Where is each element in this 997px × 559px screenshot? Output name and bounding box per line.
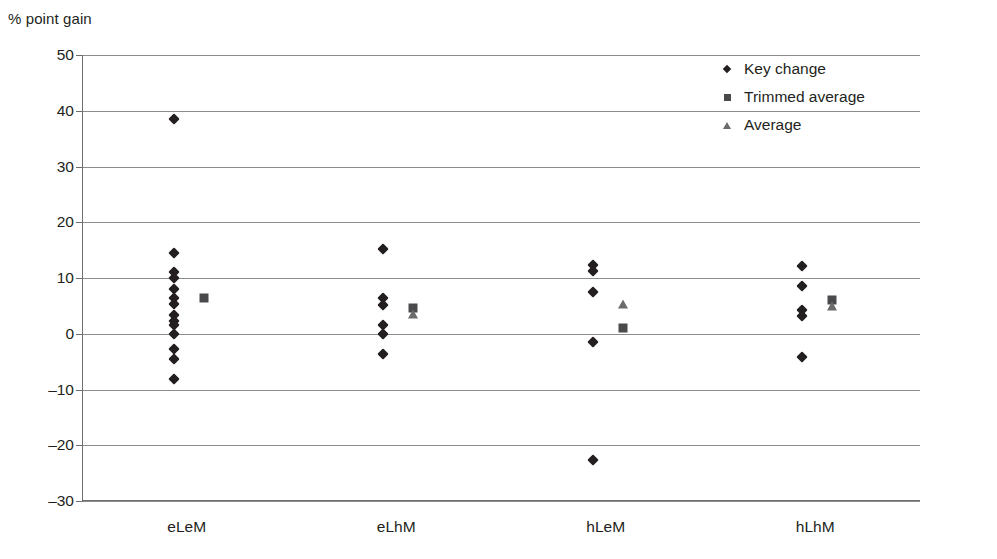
legend-square-icon (716, 94, 738, 101)
data-point-diamond (378, 243, 389, 254)
legend-item-label: Average (738, 116, 801, 134)
y-axis-tick-label: –30 (12, 492, 74, 510)
gridline (83, 167, 920, 168)
gridline (83, 334, 920, 335)
y-axis-tick-label: –20 (12, 436, 74, 454)
y-axis-tick-label: 0 (12, 325, 74, 343)
data-point-square (199, 294, 208, 303)
data-point-triangle (827, 301, 837, 310)
y-axis-tick-label: 50 (12, 46, 74, 64)
scatter-chart: % point gain 50403020100–10–20–30 eLeMeL… (0, 0, 997, 559)
data-point-triangle (618, 299, 628, 308)
data-point-diamond (587, 336, 598, 347)
x-axis-tick-label: hLhM (796, 518, 835, 536)
y-axis-tick-label: 30 (12, 158, 74, 176)
data-point-diamond (378, 328, 389, 339)
gridline (83, 390, 920, 391)
gridline (83, 278, 920, 279)
data-point-diamond (168, 328, 179, 339)
gridline (83, 501, 920, 502)
data-point-diamond (797, 351, 808, 362)
legend-item: Trimmed average (716, 84, 936, 110)
x-axis-tick-label: eLeM (167, 518, 206, 536)
data-point-diamond (587, 286, 598, 297)
data-point-diamond (168, 354, 179, 365)
data-point-diamond (587, 455, 598, 466)
legend-item: Average (716, 112, 936, 138)
y-axis-tick-label: –10 (12, 381, 74, 399)
y-axis-tick-label: 20 (12, 213, 74, 231)
legend-item-label: Key change (738, 60, 826, 78)
data-point-diamond (378, 348, 389, 359)
x-axis-tick-label: eLhM (377, 518, 416, 536)
data-point-diamond (168, 113, 179, 124)
y-axis-tick-labels: 50403020100–10–20–30 (0, 0, 74, 559)
x-axis-tick-label: hLeM (586, 518, 625, 536)
gridline (83, 222, 920, 223)
y-axis-tick-mark (76, 501, 83, 502)
data-point-diamond (797, 311, 808, 322)
data-point-diamond (797, 260, 808, 271)
gridline (83, 445, 920, 446)
data-point-diamond (797, 280, 808, 291)
legend-triangle-icon (716, 122, 738, 129)
data-point-diamond (168, 247, 179, 258)
legend-diamond-icon (716, 66, 738, 72)
legend-item: Key change (716, 56, 936, 82)
chart-legend: Key changeTrimmed averageAverage (716, 56, 936, 140)
y-axis-tick-label: 40 (12, 102, 74, 120)
y-axis-tick-label: 10 (12, 269, 74, 287)
data-point-diamond (168, 374, 179, 385)
data-point-square (618, 323, 627, 332)
data-point-triangle (408, 309, 418, 318)
legend-item-label: Trimmed average (738, 88, 865, 106)
